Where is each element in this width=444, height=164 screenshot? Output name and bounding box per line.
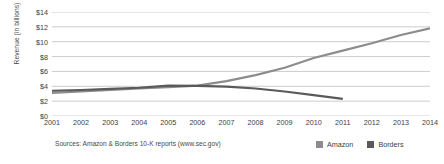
legend-swatch-icon [316,141,323,148]
y-tick-label: $4 [26,82,48,91]
y-tick-label: $12 [26,22,48,31]
y-tick-label: $14 [26,8,48,17]
y-tick-label: $10 [26,37,48,46]
y-tick-label: $6 [26,67,48,76]
x-tick-label: 2014 [410,118,444,127]
series-line-amazon [52,28,430,93]
y-axis-title: Revenue (in billions) [13,0,20,94]
series-line-borders [52,86,343,99]
legend-swatch-icon [367,141,374,148]
revenue-line-chart: Revenue (in billions) $0$2$4$6$8$10$12$1… [0,0,444,164]
x-axis-tick-labels: 2001200220032004200520062007200820092010… [52,118,430,130]
plot-area [52,12,430,116]
chart-svg [52,12,430,116]
series-lines [52,28,430,99]
legend-item-borders[interactable]: Borders [367,140,403,149]
y-axis-tick-labels: $0$2$4$6$8$10$12$14 [26,12,48,116]
y-tick-label: $2 [26,97,48,106]
gridlines [52,12,430,116]
y-tick-label: $8 [26,52,48,61]
chart-legend: AmazonBorders [316,140,404,149]
legend-label: Borders [378,140,403,149]
legend-item-amazon[interactable]: Amazon [316,140,353,149]
source-note: Sources: Amazon & Borders 10-K reports (… [55,140,221,147]
legend-label: Amazon [327,140,353,149]
